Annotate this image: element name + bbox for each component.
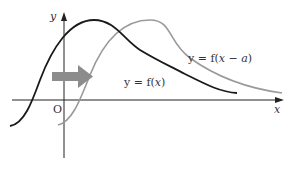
x-axis-label: x [274,103,281,116]
y-axis-arrowhead [61,12,67,21]
y-axis-label: y [49,10,57,23]
curve-original-label: y = f(x) [123,76,165,89]
curve-shifted [58,20,282,125]
curve-original [10,20,237,126]
origin-label: O [53,103,62,116]
function-shift-diagram: y x O y = f(x) y = f(x − a) [0,0,291,169]
curve-shifted-label: y = f(x − a) [187,52,252,65]
